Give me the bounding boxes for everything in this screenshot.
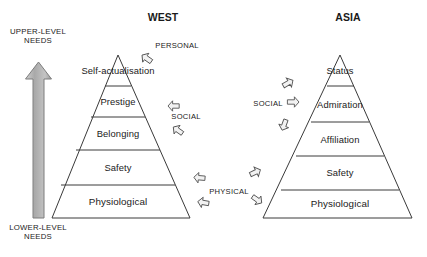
west-physical-arrow-upper-icon <box>193 172 205 183</box>
west-tier-self-actualisation: Self-actualisation <box>81 66 154 77</box>
west-tier-belonging: Belonging <box>97 129 140 140</box>
asia-social-arrow-lower-icon <box>277 118 291 132</box>
asia-physical-arrow-upper-icon <box>248 165 263 179</box>
asia-social-arrow-upper-icon <box>281 76 296 91</box>
upward-needs-arrow <box>26 62 52 218</box>
lower-level-needs-label: LOWER-LEVEL NEEDS <box>9 224 67 241</box>
asia-tier-physiological: Physiological <box>311 199 369 210</box>
diagram-canvas: WEST ASIA UPPER-LEVEL NEEDS LOWER-LEVEL … <box>0 0 427 257</box>
category-social-west-label: SOCIAL <box>171 113 200 122</box>
asia-tier-status: Status <box>326 66 353 77</box>
asia-physical-arrow-lower-icon <box>250 192 265 207</box>
west-tier-prestige: Prestige <box>100 97 135 108</box>
header-west: WEST <box>148 12 179 24</box>
lower-level-needs-line2: NEEDS <box>24 232 52 241</box>
west-tier-physiological: Physiological <box>89 197 147 208</box>
category-personal-label: PERSONAL <box>155 42 198 51</box>
west-social-arrow-upper-icon <box>168 101 179 111</box>
asia-tier-safety: Safety <box>326 168 353 179</box>
category-physical-label: PHYSICAL <box>209 188 249 197</box>
west-physical-arrow-lower-icon <box>197 196 210 208</box>
upper-level-needs-line1: UPPER-LEVEL <box>10 27 66 36</box>
upper-level-needs-label: UPPER-LEVEL NEEDS <box>10 28 66 45</box>
west-social-arrow-lower-icon <box>170 123 185 138</box>
category-social-asia-label: SOCIAL <box>253 100 282 109</box>
asia-tier-admiration: Admiration <box>317 100 363 111</box>
asia-social-arrow-icon <box>287 97 299 107</box>
header-asia: ASIA <box>335 12 361 24</box>
upper-level-needs-line2: NEEDS <box>24 36 52 45</box>
asia-tier-affiliation: Affiliation <box>321 135 360 146</box>
west-tier-safety: Safety <box>104 163 131 174</box>
lower-level-needs-line1: LOWER-LEVEL <box>9 223 67 232</box>
